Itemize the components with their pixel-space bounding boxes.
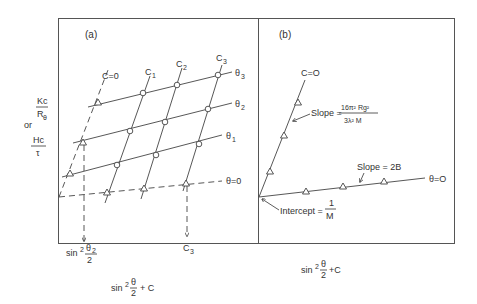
- slope-2b-annotation: Slope = 2B: [357, 162, 401, 182]
- concentration-labels: C=0 C 1 C 2 C 3: [102, 53, 227, 81]
- c-zero-line: [59, 70, 108, 197]
- x-marker-theta2: sin 2 θ 2 2: [66, 243, 97, 265]
- angle-labels: θ 3 θ 2 θ 1 θ=0: [226, 68, 245, 186]
- svg-text:2: 2: [87, 255, 92, 265]
- svg-text:3λ² M: 3λ² M: [344, 117, 362, 124]
- theta-zero-line: [59, 181, 222, 197]
- svg-text:τ: τ: [36, 148, 40, 158]
- panel-a-x-axis-label: sin 2 θ 2 + C: [111, 277, 155, 298]
- y-axis-label: Kc R θ or Hc τ: [24, 96, 48, 158]
- svg-text:2: 2: [321, 270, 326, 280]
- svg-text:sin: sin: [66, 248, 78, 258]
- c-zero-label-b: C=O: [301, 68, 320, 78]
- panel-b-x-axis-label: sin 2 θ 2 +C: [301, 259, 341, 280]
- panel-a-label: (a): [85, 29, 97, 40]
- svg-text:1: 1: [232, 136, 236, 143]
- svg-text:θ: θ: [43, 114, 47, 121]
- svg-text:2: 2: [131, 288, 136, 298]
- panel-b-label: (b): [279, 29, 291, 40]
- slope-rg-annotation: Slope = 16π² Rg² 3λ² M: [293, 104, 378, 124]
- svg-text:+C: +C: [329, 265, 341, 275]
- extrapolated-points: [67, 99, 190, 195]
- svg-text:Intercept =: Intercept =: [280, 206, 323, 216]
- svg-text:C=0: C=0: [102, 71, 119, 81]
- svg-text:2: 2: [80, 246, 84, 253]
- svg-text:θ: θ: [86, 243, 91, 253]
- panel-a: (a) Kc R θ or Hc τ: [24, 29, 245, 298]
- svg-text:2: 2: [241, 104, 245, 111]
- svg-text:1: 1: [329, 198, 334, 208]
- c3-line: [183, 65, 222, 191]
- svg-text:θ: θ: [235, 68, 240, 78]
- svg-text:2: 2: [125, 281, 129, 288]
- theta-zero-label-b: θ=O: [429, 174, 446, 184]
- svg-text:θ=0: θ=0: [226, 176, 241, 186]
- extrapolated-lines-b: [259, 80, 425, 197]
- svg-text:3: 3: [241, 73, 245, 80]
- svg-text:θ: θ: [235, 99, 240, 109]
- zimm-plot-figure: (a) Kc R θ or Hc τ: [0, 0, 477, 304]
- svg-text:M: M: [326, 211, 334, 221]
- svg-text:1: 1: [152, 72, 156, 79]
- data-grid: [62, 65, 232, 203]
- svg-text:C: C: [145, 67, 152, 77]
- svg-text:θ: θ: [226, 131, 231, 141]
- svg-text:or: or: [24, 120, 32, 130]
- svg-text:+ C: + C: [140, 283, 155, 293]
- panel-b: (b) C=O θ=O Slope = 16π² Rg² 3λ² M Slope…: [259, 29, 446, 280]
- panel-frames: [59, 19, 455, 244]
- extrapolation-lines: [59, 70, 222, 241]
- svg-text:3: 3: [190, 248, 194, 255]
- svg-text:2: 2: [315, 263, 319, 270]
- svg-text:C: C: [216, 53, 223, 63]
- svg-text:3: 3: [223, 58, 227, 65]
- svg-text:Kc: Kc: [37, 96, 48, 106]
- svg-text:C: C: [183, 243, 190, 253]
- svg-text:θ: θ: [131, 277, 136, 287]
- svg-text:θ: θ: [321, 259, 326, 269]
- svg-text:Hc: Hc: [33, 135, 44, 145]
- svg-text:2: 2: [183, 64, 187, 71]
- svg-text:16π² Rg²: 16π² Rg²: [341, 104, 370, 112]
- x-marker-c3: C 3: [183, 243, 194, 255]
- svg-text:sin: sin: [301, 265, 313, 275]
- c-zero-line-b: [259, 80, 305, 197]
- svg-text:sin: sin: [111, 283, 123, 293]
- intercept-annotation: Intercept = 1 M: [262, 198, 336, 221]
- svg-text:Slope = 2B: Slope = 2B: [357, 162, 401, 172]
- svg-text:2: 2: [92, 247, 96, 254]
- svg-text:C: C: [176, 59, 183, 69]
- svg-text:Slope =: Slope =: [311, 108, 342, 118]
